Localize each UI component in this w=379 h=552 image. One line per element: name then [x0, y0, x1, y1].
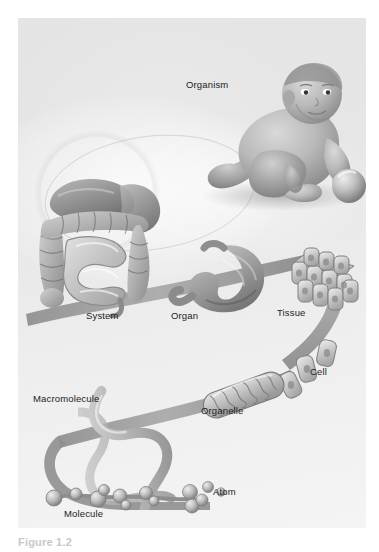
label-macromolecule: Macromolecule — [33, 393, 99, 404]
label-cell: Cell — [310, 366, 327, 377]
label-tissue: Tissue — [277, 307, 306, 318]
atom-illustration — [176, 476, 236, 520]
illustration-panel: Organism System Organ Tissue Cell Organe… — [18, 18, 366, 528]
label-atom: Atom — [213, 486, 236, 497]
label-organism: Organism — [186, 79, 228, 90]
label-organ: Organ — [171, 310, 198, 321]
figure-caption: Figure 1.2 — [18, 536, 358, 548]
system-illustration — [24, 166, 172, 318]
label-organelle: Organelle — [201, 405, 244, 416]
label-molecule: Molecule — [64, 508, 103, 519]
figure-page: Organism System Organ Tissue Cell Organe… — [0, 0, 379, 552]
label-system: System — [86, 310, 119, 321]
organism-illustration — [188, 46, 366, 216]
